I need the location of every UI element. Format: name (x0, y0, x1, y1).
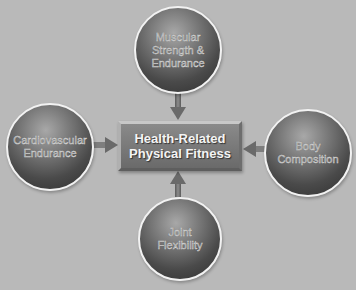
arrow-bottom-to-center (170, 171, 186, 197)
node-label: Body Composition (270, 140, 346, 166)
center-node-health-related-fitness: Health-Related Physical Fitness (118, 121, 242, 171)
node-body-composition: Body Composition (264, 109, 352, 197)
node-label: Cardiovascular Endurance (12, 134, 88, 160)
arrow-left-to-center (93, 137, 118, 153)
arrow-right-to-center (243, 141, 266, 157)
node-label: Muscular Strength & Endurance (140, 31, 216, 70)
node-joint-flexibility: Joint Flexibility (138, 197, 222, 281)
node-muscular-strength-endurance: Muscular Strength & Endurance (134, 6, 222, 94)
node-cardiovascular-endurance: Cardiovascular Endurance (6, 103, 94, 191)
center-label: Health-Related Physical Fitness (129, 131, 231, 161)
arrow-top-to-center (170, 93, 186, 120)
node-label: Joint Flexibility (144, 226, 216, 252)
fitness-diagram: Muscular Strength & Endurance Cardiovasc… (0, 0, 356, 290)
